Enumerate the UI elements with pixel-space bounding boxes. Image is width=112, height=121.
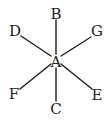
label-f: F — [9, 85, 19, 103]
star-diagram: A B G E C F D — [0, 0, 112, 121]
ray-ad — [21, 36, 51, 56]
label-g: G — [91, 22, 103, 40]
label-b: B — [50, 5, 61, 23]
label-center-a: A — [50, 53, 62, 71]
labels: A B G E C F D — [9, 5, 103, 118]
label-e: E — [92, 86, 103, 104]
label-c: C — [50, 100, 61, 118]
ray-ae — [61, 64, 92, 89]
label-d: D — [9, 22, 21, 40]
ray-af — [20, 64, 51, 89]
ray-ag — [61, 37, 91, 56]
